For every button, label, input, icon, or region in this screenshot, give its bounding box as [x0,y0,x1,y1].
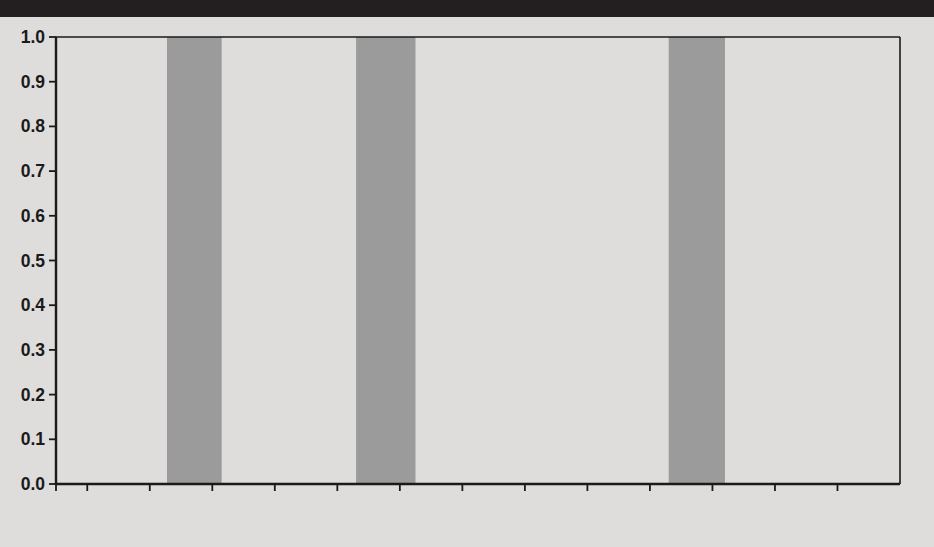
line-chart: 0.00.10.20.30.40.50.60.70.80.91.0 [0,17,934,547]
y-tick-label: 0.0 [21,474,46,494]
chart-figure: 0.00.10.20.30.40.50.60.70.80.91.0 [0,17,934,547]
recession-band-3 [669,37,725,484]
y-tick-label: 0.7 [21,161,45,181]
recession-band-1 [167,37,222,484]
y-tick-label: 0.8 [21,116,46,136]
y-tick-label: 0.4 [21,295,46,315]
y-tick-label: 0.6 [21,206,46,226]
y-tick-label: 0.3 [21,340,46,360]
top-banner [0,0,934,17]
chart-background [0,17,934,547]
y-tick-label: 0.9 [21,72,46,92]
y-tick-label: 0.1 [21,429,46,449]
y-tick-label: 0.2 [21,385,46,405]
page-root: 0.00.10.20.30.40.50.60.70.80.91.0 [0,0,934,547]
y-tick-label: 0.5 [21,251,46,271]
recession-band-2 [356,37,415,484]
y-tick-label: 1.0 [21,27,46,47]
